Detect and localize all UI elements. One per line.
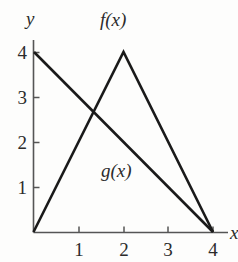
figure-canvas: y x 4 3 2 1 1 2 3 4 f(x) g(x) <box>0 0 238 262</box>
y-tick-label-4: 4 <box>5 43 27 62</box>
curve-label-g: g(x) <box>101 161 132 180</box>
y-tick-marks <box>34 53 40 188</box>
x-tick-label-2: 2 <box>113 240 135 259</box>
curve-g <box>34 52 213 232</box>
curve-label-f: f(x) <box>100 10 126 29</box>
y-tick-label-1: 1 <box>5 178 27 197</box>
x-tick-label-3: 3 <box>157 240 179 259</box>
y-tick-label-3: 3 <box>5 88 27 107</box>
x-tick-marks <box>79 227 213 233</box>
x-axis-label: x <box>230 223 238 242</box>
x-tick-label-1: 1 <box>68 240 90 259</box>
y-axis-label: y <box>26 9 34 28</box>
x-tick-label-4: 4 <box>202 240 224 259</box>
y-tick-label-2: 2 <box>5 133 27 152</box>
plot-area <box>0 0 238 262</box>
